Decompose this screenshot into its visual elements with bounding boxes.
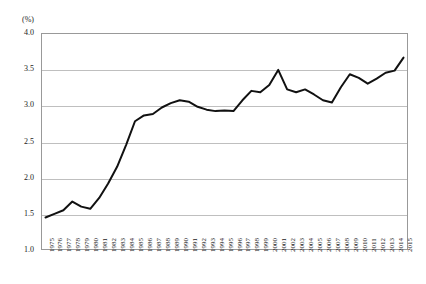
x-axis-tick-label: 2011 (371, 238, 378, 252)
x-axis-tick-label: 2010 (362, 238, 369, 252)
x-axis-tick-label: 2001 (281, 238, 288, 252)
y-axis-tick-label: 4.0 (0, 29, 34, 37)
x-axis-tick-label: 1987 (156, 238, 163, 252)
x-axis-tick-label: 2012 (380, 238, 387, 252)
x-axis-tick-label: 1999 (263, 238, 270, 252)
x-axis-tick-label: 1978 (75, 238, 82, 252)
x-axis-tick-label: 1994 (219, 238, 226, 252)
x-axis-tick-label: 2002 (290, 238, 297, 252)
y-axis-tick-label: 2.0 (0, 174, 34, 182)
x-axis-tick-label: 1988 (165, 238, 172, 252)
x-axis-tick-label: 1977 (66, 238, 73, 252)
x-axis-tick-label: 1981 (102, 238, 109, 252)
x-axis-tick-label: 1975 (49, 238, 56, 252)
x-axis-tick-label: 1995 (228, 238, 235, 252)
x-axis-tick-label: 2000 (272, 238, 279, 252)
y-axis-tick-labels: 4.03.53.02.52.01.51.0 (0, 0, 38, 284)
x-axis-tick-label: 2015 (407, 238, 414, 252)
x-axis-tick-label: 1993 (210, 238, 217, 252)
x-axis-tick-labels: 1975197619771978197919801981198219831984… (41, 252, 408, 284)
y-axis-tick-label: 1.5 (0, 210, 34, 218)
series-line-0 (45, 58, 403, 218)
x-axis-tick-label: 1989 (174, 238, 181, 252)
series-layer (41, 33, 408, 250)
x-axis-tick-label: 1992 (201, 238, 208, 252)
x-axis-tick-label: 2013 (389, 238, 396, 252)
x-axis-tick-label: 2004 (308, 238, 315, 252)
x-axis-tick-label: 1996 (237, 238, 244, 252)
y-axis-tick-label: 3.0 (0, 101, 34, 109)
x-axis-tick-label: 2008 (344, 238, 351, 252)
x-axis-tick-label: 1997 (245, 238, 252, 252)
x-axis-tick-label: 1980 (93, 238, 100, 252)
x-axis-tick-label: 2007 (335, 238, 342, 252)
x-axis-tick-label: 1986 (147, 238, 154, 252)
x-axis-tick-label: 1976 (57, 238, 64, 252)
x-axis-tick-label: 2014 (398, 238, 405, 252)
x-axis-tick-label: 1985 (138, 238, 145, 252)
y-axis-tick-label: 3.5 (0, 65, 34, 73)
x-axis-tick-label: 1998 (254, 238, 261, 252)
x-axis-tick-label: 1990 (183, 238, 190, 252)
x-axis-tick-label: 1983 (120, 238, 127, 252)
x-axis-tick-label: 2006 (326, 238, 333, 252)
x-axis-tick-label: 2009 (353, 238, 360, 252)
x-axis-tick-label: 2005 (317, 238, 324, 252)
line-chart: (%) 4.03.53.02.52.01.51.0 19751976197719… (0, 0, 426, 284)
x-axis-tick-label: 1991 (192, 238, 199, 252)
x-axis-tick-label: 1979 (84, 238, 91, 252)
x-axis-tick-label: 1982 (111, 238, 118, 252)
y-axis-tick-label: 2.5 (0, 138, 34, 146)
y-axis-tick-label: 1.0 (0, 246, 34, 254)
x-axis-tick-label: 2003 (299, 238, 306, 252)
x-axis-tick-label: 1984 (129, 238, 136, 252)
